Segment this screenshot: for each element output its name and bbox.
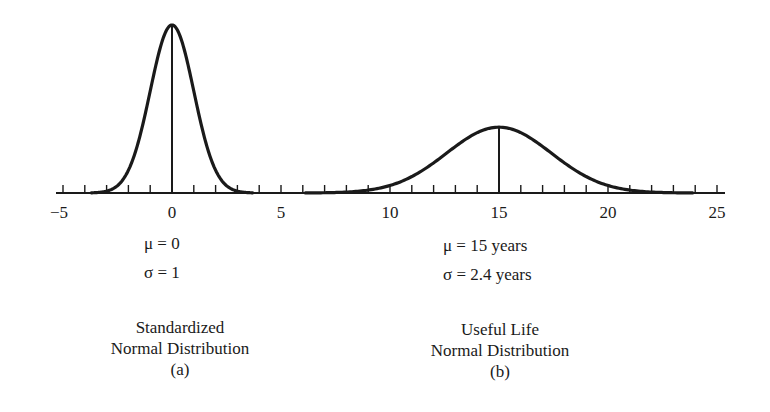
- x-tick-label: 5: [277, 203, 286, 222]
- x-tick-label: 25: [709, 203, 726, 222]
- param-sigma-a: σ = 1: [144, 263, 180, 283]
- caption-a: Standardized Normal Distribution (a): [60, 317, 300, 380]
- x-tick-label: 15: [491, 203, 508, 222]
- caption-b-line2: Normal Distribution: [380, 340, 620, 361]
- caption-a-tag: (a): [60, 359, 300, 380]
- caption-b-line1: Useful Life: [380, 319, 620, 340]
- x-tick-label: −5: [50, 203, 68, 222]
- caption-b-tag: (b): [380, 361, 620, 382]
- x-axis-tick-labels: −50510152025: [50, 203, 726, 222]
- x-tick-label: 0: [168, 203, 177, 222]
- caption-b: Useful Life Normal Distribution (b): [380, 319, 620, 382]
- curves: [91, 25, 692, 193]
- x-tick-label: 20: [600, 203, 617, 222]
- x-tick-label: 10: [382, 203, 399, 222]
- param-mu-b: μ = 15 years: [443, 236, 527, 256]
- caption-a-line1: Standardized: [60, 317, 300, 338]
- param-sigma-b: σ = 2.4 years: [443, 265, 532, 285]
- caption-a-line2: Normal Distribution: [60, 338, 300, 359]
- param-mu-a: μ = 0: [144, 234, 180, 254]
